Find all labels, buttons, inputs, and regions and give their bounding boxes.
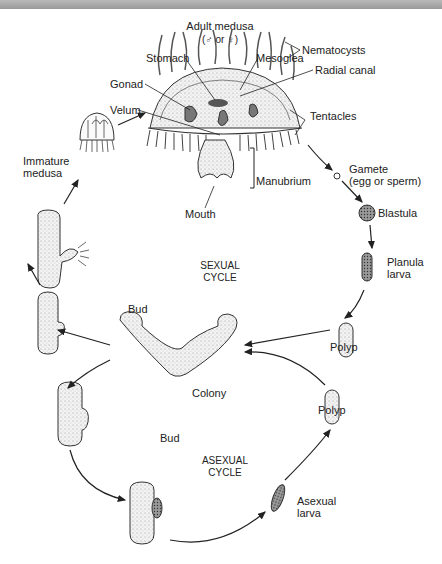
label-bud-upper: Bud	[128, 303, 148, 315]
polyp-bud-lower	[58, 382, 88, 446]
polyp-releasing-larva	[130, 482, 162, 544]
label-stomach: Stomach	[146, 52, 189, 64]
label-immature-medusa-1: Immature	[23, 155, 69, 167]
label-mesoglea: Mesoglea	[256, 52, 304, 64]
label-asexual-larva-2: larva	[297, 507, 321, 519]
label-blastula: Blastula	[378, 207, 417, 219]
polyp-bud-upper	[38, 292, 64, 354]
adult-medusa-title: Adult medusa	[170, 20, 270, 32]
label-polyp-upper: Polyp	[330, 341, 358, 353]
label-colony: Colony	[192, 387, 226, 399]
immature-medusa	[80, 113, 114, 152]
label-gamete-2: (egg or sperm)	[349, 175, 421, 187]
label-bud-lower: Bud	[160, 432, 180, 444]
colony	[120, 312, 237, 377]
label-tentacles: Tentacles	[310, 110, 356, 122]
sex-symbols: (♂ or ♀)	[190, 34, 250, 46]
label-gamete-1: Gamete	[349, 163, 388, 175]
label-planula-1: Planula	[387, 256, 424, 268]
label-gonad: Gonad	[110, 78, 143, 90]
label-immature-medusa-2: medusa	[23, 167, 62, 179]
label-nematocysts: Nematocysts	[302, 44, 366, 56]
label-sexual-cycle-1: SEXUAL	[190, 260, 250, 272]
asexual-larva	[269, 483, 288, 513]
blastula	[359, 205, 375, 221]
label-manubrium: Manubrium	[256, 175, 311, 187]
label-asexual-cycle-1: ASEXUAL	[190, 455, 260, 467]
label-sexual-cycle-2: CYCLE	[190, 272, 250, 284]
label-asexual-cycle-2: CYCLE	[190, 467, 260, 479]
label-polyp-lower: Polyp	[318, 404, 346, 416]
polyp-with-medusa-bud	[38, 210, 89, 288]
planula-larva	[362, 253, 372, 281]
label-radial-canal: Radial canal	[315, 64, 376, 76]
label-asexual-larva-1: Asexual	[297, 495, 336, 507]
gamete	[334, 173, 340, 179]
label-planula-2: larva	[387, 268, 411, 280]
label-mouth: Mouth	[185, 208, 216, 220]
label-velum: Velum	[110, 104, 141, 116]
